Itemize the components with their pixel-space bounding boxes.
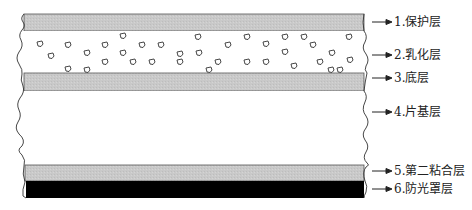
label-arrows bbox=[372, 20, 392, 192]
label-second-adhesive-layer: 5.第二粘合层 bbox=[394, 164, 465, 178]
layer-6-antihalation bbox=[26, 181, 364, 198]
layer-1-protective bbox=[24, 14, 364, 31]
label-emulsion-layer: 2.乳化层 bbox=[394, 48, 441, 62]
label-antihalation-layer: 6.防光罩层 bbox=[394, 182, 453, 196]
label-base-layer: 4.片基层 bbox=[394, 105, 441, 119]
label-protective-layer: 1.保护层 bbox=[394, 15, 441, 29]
layer-4-base bbox=[20, 91, 366, 165]
label-subbing-layer: 3.底层 bbox=[394, 71, 429, 85]
layer-5-second-adhesive bbox=[25, 165, 364, 181]
layer-3-subbing bbox=[24, 73, 364, 91]
layer-2-emulsion bbox=[20, 31, 366, 73]
